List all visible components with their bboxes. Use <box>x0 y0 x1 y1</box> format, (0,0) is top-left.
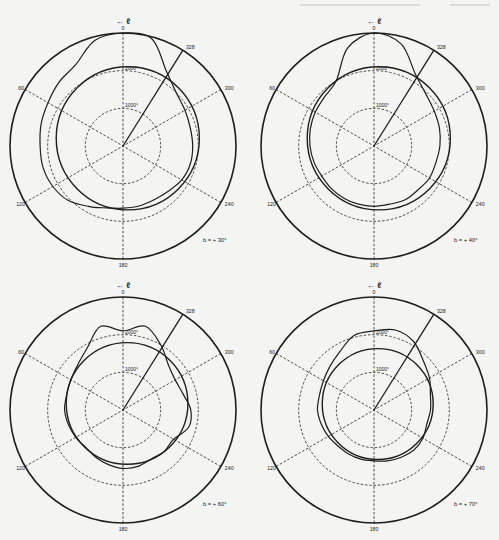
latitude-label: b = + 40° <box>454 237 478 243</box>
radial-ring-label: 2000° <box>125 329 138 335</box>
angle-tick-label-328: 328 <box>186 308 195 314</box>
longitude-axis-label: ← ℓ <box>116 281 130 290</box>
angle-tick-label-120: 120 <box>267 201 276 207</box>
panel-bottom-right: 1000°2000°060120180240300328← ℓb = + 70° <box>261 281 487 532</box>
angle-tick-label-300: 300 <box>476 349 485 355</box>
angle-tick-label-120: 120 <box>16 465 25 471</box>
angle-tick-label-300: 300 <box>225 349 234 355</box>
radial-ring-label: 1000° <box>125 366 138 372</box>
longitude-axis-label: ← ℓ <box>116 17 130 26</box>
angle-tick-label-180: 180 <box>370 262 379 268</box>
angle-tick-label-120: 120 <box>267 465 276 471</box>
angle-tick-label-180: 180 <box>119 526 128 532</box>
angle-tick-label-328: 328 <box>186 44 195 50</box>
radial-ring-label: 1000° <box>376 366 389 372</box>
angle-tick-label-240: 240 <box>225 201 234 207</box>
angle-tick-label-60: 60 <box>269 349 275 355</box>
angle-tick-label-120: 120 <box>16 201 25 207</box>
angle-tick-label-240: 240 <box>476 465 485 471</box>
panel-top-left: 1000°2000°060120180240300328← ℓb = + 30° <box>10 17 236 268</box>
radial-ring-label: 1000° <box>125 102 138 108</box>
angle-tick-label-60: 60 <box>269 85 275 91</box>
angle-tick-label-180: 180 <box>370 526 379 532</box>
longitude-axis-label: ← ℓ <box>367 17 381 26</box>
angle-tick-label-240: 240 <box>225 465 234 471</box>
angle-tick-label-60: 60 <box>18 349 24 355</box>
panel-top-right: 1000°2000°060120180240300328← ℓb = + 40° <box>261 17 487 268</box>
polar-plot-figure: 1000°2000°060120180240300328← ℓb = + 30°… <box>0 0 499 540</box>
radial-ring-label: 1000° <box>376 102 389 108</box>
angle-tick-label-300: 300 <box>476 85 485 91</box>
observed-contour <box>310 33 441 206</box>
angle-tick-label-328: 328 <box>437 308 446 314</box>
latitude-label: b = + 30° <box>203 237 227 243</box>
angle-tick-label-300: 300 <box>225 85 234 91</box>
observed-contour <box>40 33 193 208</box>
longitude-axis-label: ← ℓ <box>367 281 381 290</box>
angle-tick-label-60: 60 <box>18 85 24 91</box>
latitude-label: b = + 60° <box>203 501 227 507</box>
angle-tick-label-180: 180 <box>119 262 128 268</box>
angle-tick-label-240: 240 <box>476 201 485 207</box>
angle-tick-label-328: 328 <box>437 44 446 50</box>
latitude-label: b = + 70° <box>454 501 478 507</box>
panel-bottom-left: 1000°2000°060120180240300328← ℓb = + 60° <box>10 281 236 532</box>
